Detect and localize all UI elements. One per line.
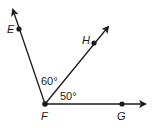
label-e: E [7, 23, 15, 35]
ray-fe [13, 10, 45, 104]
point-f [42, 101, 48, 107]
label-f: F [41, 110, 49, 122]
label-h: H [82, 34, 90, 46]
angle-diagram: E H F G 60° 50° [0, 0, 152, 128]
point-g [119, 101, 124, 106]
diagram-canvas: E H F G 60° 50° [0, 0, 152, 128]
point-e [16, 26, 21, 31]
point-h [91, 40, 96, 45]
label-g: G [117, 110, 126, 122]
angle-efh-label: 60° [41, 75, 58, 87]
angle-hfg-label: 50° [60, 90, 77, 102]
